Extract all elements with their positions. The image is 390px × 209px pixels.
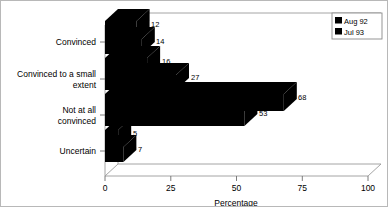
legend-label-jul93: Jul 93 [344,28,364,37]
category-label-small-extent-line2: extent [73,80,97,90]
bar-value-label: 68 [298,93,306,102]
value-tick-label-75: 75 [298,183,308,193]
bar-value-label: 27 [191,73,199,82]
frame-depth-bottomright [368,164,381,176]
bar-top-face [105,99,257,111]
bar-top-face [105,82,297,94]
value-axis: 0 25 50 75 100 Percentage [103,176,376,207]
category-label-convinced: Convinced [56,37,96,47]
bar-value-label: 7 [138,145,142,154]
category-label-small-extent-line1: Convinced to a small [17,69,96,79]
chart-legend: Aug 92 Jul 93 [332,13,382,39]
chart-container: 12 14 16 27 68 [0,0,388,207]
category-label-not-at-all-line2: convinced [58,116,97,126]
legend-swatch-jul93 [335,28,342,35]
value-tick-label-50: 50 [232,183,242,193]
bar-value-label: 14 [156,37,164,46]
bar-chart: 12 14 16 27 68 [1,1,388,207]
category-label-uncertain: Uncertain [60,146,97,156]
value-tick-label-100: 100 [361,183,375,193]
legend-label-aug92: Aug 92 [344,17,368,26]
value-tick-label-25: 25 [166,183,176,193]
value-tick-label-0: 0 [103,183,108,193]
x-axis-title: Percentage [214,198,258,207]
frame-depth-bottomleft [105,164,118,176]
bar-top-face [105,63,189,75]
category-label-not-at-all-line1: Not at all [62,105,96,115]
bar-front-face [105,147,123,162]
legend-swatch-aug92 [335,17,342,24]
category-axis: Convinced Convinced to a small extent No… [17,37,105,156]
bar-value-label: 53 [259,109,267,118]
